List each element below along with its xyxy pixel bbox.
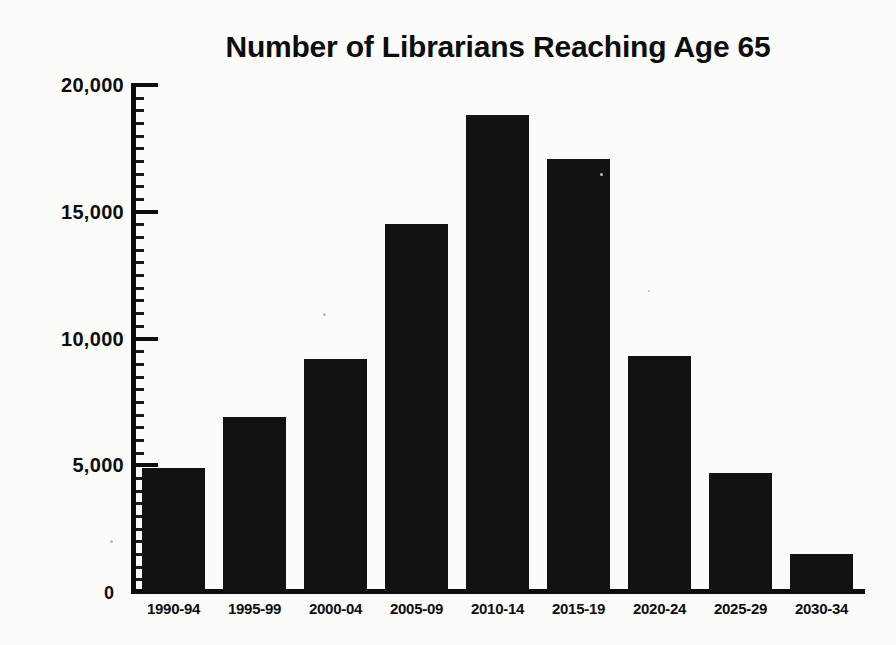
bar <box>385 224 448 592</box>
bar <box>223 417 286 592</box>
scan-speckle <box>110 540 113 543</box>
plot-area <box>131 85 865 592</box>
chart-title: Number of Librarians Reaching Age 65 <box>131 30 865 64</box>
bar <box>142 468 205 592</box>
bar <box>547 159 610 592</box>
x-axis-tick-label: 2025-29 <box>714 600 767 617</box>
y-axis-tick-label: 10,000 <box>61 327 124 350</box>
bar <box>304 359 367 592</box>
bar <box>466 115 529 592</box>
x-axis-tick-label: 2030-34 <box>795 600 848 617</box>
bar-chart-figure: Number of Librarians Reaching Age 65 20,… <box>0 0 896 645</box>
scan-speckle <box>323 313 326 316</box>
x-axis-tick-label: 1990-94 <box>147 600 200 617</box>
bar <box>790 554 853 592</box>
y-axis-label-zero: 0 <box>104 583 114 604</box>
scan-speckle <box>600 173 603 176</box>
bar <box>628 356 691 592</box>
x-axis-tick-label: 2000-04 <box>309 600 362 617</box>
x-axis-tick-label: 2015-19 <box>552 600 605 617</box>
y-axis-tick-label: 15,000 <box>61 200 124 223</box>
scan-speckle <box>648 290 650 292</box>
bar <box>709 473 772 592</box>
y-axis-tick-label: 5,000 <box>72 454 124 477</box>
x-axis-tick-label: 1995-99 <box>228 600 281 617</box>
x-axis-tick-label: 2010-14 <box>471 600 524 617</box>
y-axis-tick-label: 20,000 <box>61 74 124 97</box>
x-axis-tick-label: 2020-24 <box>633 600 686 617</box>
x-axis-tick-label: 2005-09 <box>390 600 443 617</box>
